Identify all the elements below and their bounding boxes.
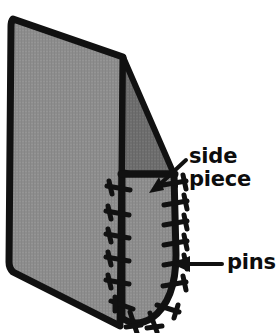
label-side-piece-line-2: piece [189, 168, 251, 191]
label-side-piece-line-1: side [189, 145, 251, 168]
label-pins-line-1: pins [227, 251, 276, 274]
side-piece-shape [122, 57, 175, 186]
pinned-pocket-shape [122, 174, 176, 323]
label-side-piece: side piece [189, 145, 251, 191]
label-pins: pins [227, 251, 276, 274]
pins-arrow [172, 256, 222, 272]
illustration-canvas: side piece pins [0, 0, 277, 333]
